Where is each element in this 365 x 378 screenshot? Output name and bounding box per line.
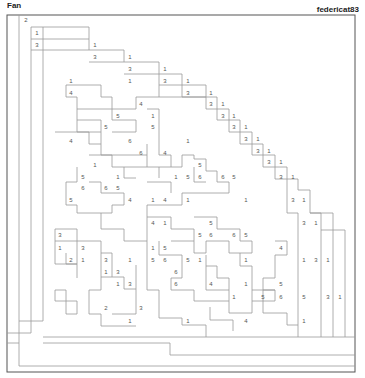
clue-number: 3 bbox=[219, 112, 227, 120]
clue-number: 3 bbox=[126, 65, 134, 73]
clue-number: 4 bbox=[137, 100, 145, 108]
clue-number: 5 bbox=[67, 196, 75, 204]
clue-number: 3 bbox=[277, 173, 285, 181]
clue-number: 1 bbox=[102, 268, 110, 276]
clue-number: 6 bbox=[207, 231, 215, 239]
clue-number: 3 bbox=[184, 89, 192, 97]
clue-number: 1 bbox=[242, 123, 250, 131]
clue-number: 4 bbox=[207, 280, 215, 288]
clue-number: 1 bbox=[79, 256, 87, 264]
clue-number: 5 bbox=[149, 123, 157, 131]
clue-number: 3 bbox=[91, 53, 99, 61]
clue-number: 1 bbox=[219, 100, 227, 108]
clue-number: 3 bbox=[137, 304, 145, 312]
clue-number: 1 bbox=[184, 196, 192, 204]
clue-number: 3 bbox=[324, 293, 332, 301]
clue-number: 6 bbox=[230, 231, 238, 239]
clue-number: 4 bbox=[161, 149, 169, 157]
clue-number: 1 bbox=[126, 317, 134, 325]
clue-number: 5 bbox=[196, 231, 204, 239]
clue-number: 2 bbox=[22, 16, 30, 24]
clue-number: 4 bbox=[67, 137, 75, 145]
clue-number: 1 bbox=[242, 280, 250, 288]
clue-number: 1 bbox=[172, 173, 180, 181]
clue-number: 1 bbox=[289, 173, 297, 181]
clue-number: 1 bbox=[242, 256, 250, 264]
clue-number: 1 bbox=[324, 256, 332, 264]
clue-number: 5 bbox=[277, 280, 285, 288]
clue-number: 1 bbox=[336, 293, 344, 301]
clue-number: 3 bbox=[265, 158, 273, 166]
clue-number: 1 bbox=[184, 137, 192, 145]
clue-number: 5 bbox=[114, 112, 122, 120]
clue-number: 1 bbox=[126, 53, 134, 61]
clue-number: 2 bbox=[102, 304, 110, 312]
clue-number: 1 bbox=[300, 196, 308, 204]
clue-number: 1 bbox=[149, 112, 157, 120]
clue-number: 6 bbox=[172, 268, 180, 276]
clue-number: 5 bbox=[184, 256, 192, 264]
clue-number: 1 bbox=[91, 41, 99, 49]
clue-number: 6 bbox=[126, 137, 134, 145]
clue-number: 5 bbox=[259, 293, 267, 301]
clue-number: 1 bbox=[33, 29, 41, 37]
clue-number: 1 bbox=[149, 196, 157, 204]
clue-number: 4 bbox=[67, 89, 75, 97]
clue-number: 3 bbox=[126, 280, 134, 288]
clue-number: 5 bbox=[230, 173, 238, 181]
clue-number: 1 bbox=[230, 293, 238, 301]
clue-number: 3 bbox=[102, 256, 110, 264]
clue-number: 4 bbox=[126, 196, 134, 204]
clue-number: 1 bbox=[230, 112, 238, 120]
clue-number: 4 bbox=[161, 196, 169, 204]
clue-number: 3 bbox=[254, 147, 262, 155]
clue-number: 5 bbox=[242, 231, 250, 239]
clue-number: 1 bbox=[67, 77, 75, 85]
clue-number: 1 bbox=[56, 244, 64, 252]
clue-number: 1 bbox=[149, 244, 157, 252]
clue-number: 5 bbox=[102, 123, 110, 131]
clue-number: 5 bbox=[114, 184, 122, 192]
clue-number: 3 bbox=[114, 268, 122, 276]
clue-number: 6 bbox=[161, 256, 169, 264]
clue-number: 5 bbox=[300, 293, 308, 301]
clue-number: 3 bbox=[242, 135, 250, 143]
clue-number: 6 bbox=[219, 173, 227, 181]
clue-number: 1 bbox=[91, 161, 99, 169]
clue-number: 5 bbox=[79, 173, 87, 181]
clue-number: 5 bbox=[161, 244, 169, 252]
clue-number: 1 bbox=[312, 219, 320, 227]
clue-number: 6 bbox=[172, 280, 180, 288]
clue-number: 1 bbox=[114, 173, 122, 181]
clue-number: 1 bbox=[265, 147, 273, 155]
clue-number: 1 bbox=[277, 158, 285, 166]
clue-number: 6 bbox=[79, 184, 87, 192]
puzzle-board[interactable] bbox=[0, 0, 365, 378]
clue-number: 1 bbox=[126, 77, 134, 85]
clue-number: 4 bbox=[149, 219, 157, 227]
clue-number: 1 bbox=[196, 256, 204, 264]
clue-number: 3 bbox=[56, 231, 64, 239]
clue-number: 5 bbox=[196, 161, 204, 169]
clue-number: 4 bbox=[242, 317, 250, 325]
clue-number: 1 bbox=[114, 280, 122, 288]
clue-number: 1 bbox=[254, 135, 262, 143]
clue-number: 1 bbox=[184, 77, 192, 85]
clue-number: 1 bbox=[300, 317, 308, 325]
clue-number: 3 bbox=[300, 219, 308, 227]
clue-number: 3 bbox=[289, 196, 297, 204]
clue-number: 1 bbox=[207, 89, 215, 97]
clue-number: 3 bbox=[312, 256, 320, 264]
clue-number: 4 bbox=[277, 244, 285, 252]
clue-number: 6 bbox=[277, 293, 285, 301]
clue-number: 6 bbox=[196, 173, 204, 181]
clue-number: 1 bbox=[242, 196, 250, 204]
clue-number: 6 bbox=[102, 184, 110, 192]
clue-number: 1 bbox=[126, 256, 134, 264]
clue-number: 3 bbox=[230, 123, 238, 131]
clue-number: 1 bbox=[300, 256, 308, 264]
clue-number: 1 bbox=[161, 219, 169, 227]
clue-number: 5 bbox=[207, 219, 215, 227]
clue-number: 1 bbox=[184, 317, 192, 325]
clue-number: 3 bbox=[33, 41, 41, 49]
